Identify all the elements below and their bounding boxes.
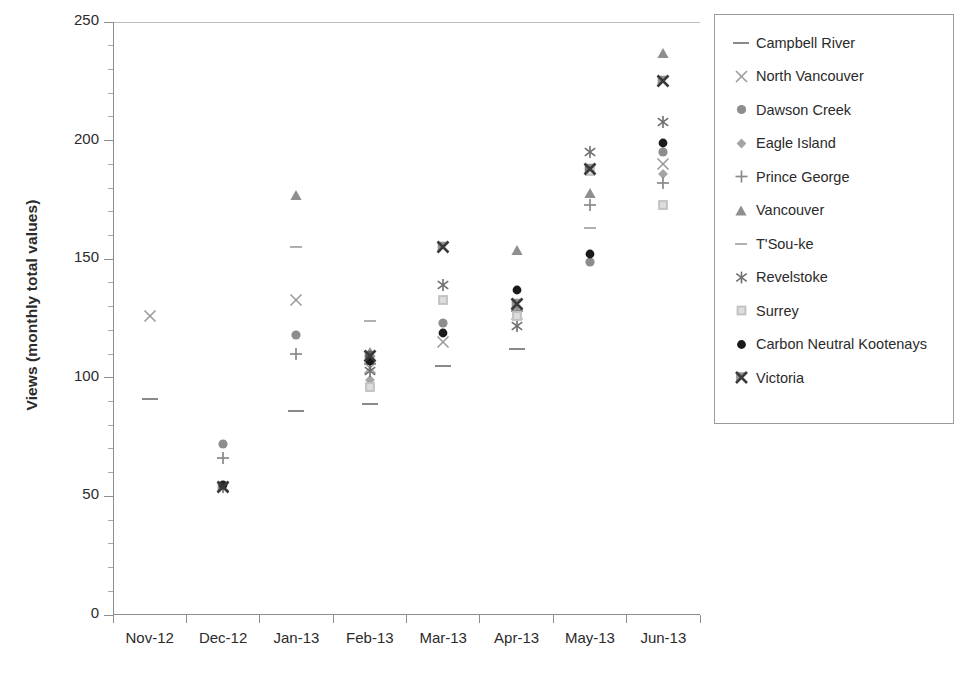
data-point: [438, 327, 449, 338]
data-point: [437, 241, 450, 254]
y-axis-tick-label: 150: [74, 248, 99, 265]
chart-legend: Campbell RiverNorth VancouverDawson Cree…: [714, 14, 954, 424]
data-point: [217, 452, 230, 465]
tick-mark: [104, 22, 113, 23]
x-axis-tick-label: Jun-13: [603, 629, 723, 646]
tick-mark: [104, 496, 113, 497]
triangle-marker-icon: [729, 201, 753, 219]
circle-black-marker-icon: [729, 335, 753, 353]
dash-marker-icon: [729, 34, 753, 52]
data-point: [437, 279, 450, 292]
data-point: [511, 311, 522, 322]
tick-mark: [108, 354, 113, 355]
legend-item-label: Carbon Neutral Kootenays: [756, 336, 927, 352]
y-axis-tick-label: 50: [82, 485, 99, 502]
plot-top-border: [113, 22, 700, 23]
tick-mark: [104, 259, 113, 260]
data-point: [509, 346, 525, 352]
legend-item-label: Eagle Island: [756, 135, 836, 151]
data-point: [435, 363, 451, 369]
square-marker-icon: [729, 302, 753, 320]
y-axis-tick-label: 0: [91, 604, 99, 621]
tick-mark: [108, 69, 113, 70]
legend-item[interactable]: Carbon Neutral Kootenays: [715, 328, 953, 362]
data-point: [584, 187, 596, 198]
tick-mark: [108, 116, 113, 117]
legend-item[interactable]: Surrey: [715, 294, 953, 328]
data-point: [583, 198, 596, 211]
tick-mark: [108, 306, 113, 307]
tick-mark: [108, 330, 113, 331]
data-point: [218, 439, 229, 450]
data-point: [657, 115, 670, 128]
tick-mark: [333, 615, 334, 623]
data-point: [290, 348, 303, 361]
legend-item[interactable]: Revelstoke: [715, 261, 953, 295]
chart-root: Views (monthly total values) 05010015020…: [0, 0, 968, 676]
tick-mark: [108, 472, 113, 473]
y-axis-tick-label: 200: [74, 130, 99, 147]
plot-area: 050100150200250 Nov-12Dec-12Jan-13Feb-13…: [113, 22, 700, 615]
y-axis-title: Views (monthly total values): [23, 155, 41, 455]
legend-item-label: Vancouver: [756, 202, 824, 218]
data-point: [658, 137, 669, 148]
legend-item[interactable]: Eagle Island: [715, 127, 953, 161]
data-point: [583, 163, 596, 176]
data-point: [658, 199, 669, 210]
legend-item-label: Victoria: [756, 370, 804, 386]
legend-item[interactable]: Vancouver: [715, 194, 953, 228]
data-point: [290, 244, 302, 250]
legend-item[interactable]: Campbell River: [715, 26, 953, 60]
tick-mark: [108, 93, 113, 94]
legend-item-label: Prince George: [756, 169, 850, 185]
data-point: [584, 249, 595, 260]
plus-marker-icon: [729, 168, 753, 186]
data-point: [291, 330, 302, 341]
tick-mark: [108, 401, 113, 402]
data-point: [657, 177, 670, 190]
tick-mark: [626, 615, 627, 623]
data-point: [362, 401, 378, 407]
legend-item[interactable]: T'Sou-ke: [715, 227, 953, 261]
asterisk-marker-icon: [729, 268, 753, 286]
tick-mark: [108, 188, 113, 189]
x-marker-icon: [729, 67, 753, 85]
y-axis-line: [113, 22, 114, 615]
data-point: [363, 350, 376, 363]
tick-mark: [553, 615, 554, 623]
data-point: [142, 396, 158, 402]
legend-item[interactable]: Victoria: [715, 361, 953, 395]
tick-mark: [104, 140, 113, 141]
legend-item-label: North Vancouver: [756, 68, 864, 84]
tick-mark: [259, 615, 260, 623]
data-point: [510, 298, 523, 311]
diamond-marker-icon: [729, 134, 753, 152]
data-point: [584, 225, 596, 231]
data-point: [288, 408, 304, 414]
tick-mark: [406, 615, 407, 623]
tick-mark: [108, 211, 113, 212]
data-point: [438, 294, 449, 305]
tick-mark: [108, 591, 113, 592]
data-point: [657, 75, 670, 88]
legend-item[interactable]: North Vancouver: [715, 60, 953, 94]
data-point: [217, 480, 230, 493]
tick-mark: [108, 448, 113, 449]
data-point: [290, 190, 302, 201]
legend-item-label: T'Sou-ke: [756, 236, 814, 252]
tick-mark: [479, 615, 480, 623]
tick-mark: [108, 567, 113, 568]
data-point: [143, 310, 156, 323]
tick-mark: [108, 425, 113, 426]
circle-gray-marker-icon: [729, 101, 753, 119]
data-point: [511, 244, 523, 255]
data-point: [364, 318, 376, 324]
legend-item[interactable]: Prince George: [715, 160, 953, 194]
y-axis-tick-label: 100: [74, 367, 99, 384]
tick-mark: [113, 615, 114, 623]
tick-mark: [108, 235, 113, 236]
legend-item[interactable]: Dawson Creek: [715, 93, 953, 127]
tick-mark: [108, 282, 113, 283]
tick-mark: [186, 615, 187, 623]
tick-mark: [108, 543, 113, 544]
